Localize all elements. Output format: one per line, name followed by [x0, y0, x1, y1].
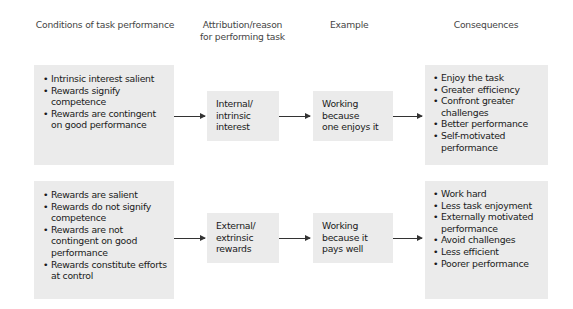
list-item: Rewards are contingent on good performan… [43, 108, 168, 131]
attribution-line: interest [216, 121, 279, 133]
list-item: Better performance [433, 118, 544, 130]
header-attribution-line1: Attribution/reason [190, 19, 295, 31]
header-attribution-line2: for performing task [190, 31, 295, 43]
header-consequences: Consequences [430, 19, 542, 31]
header-example: Example [318, 19, 400, 31]
arrow-icon [174, 116, 205, 117]
list-item: Self-motivated performance [433, 130, 544, 153]
row2-consequences-box: Work hard Less task enjoyment Externally… [425, 181, 548, 299]
list-item: Enjoy the task [433, 72, 544, 84]
list-item: Confront greater challenges [433, 95, 544, 118]
row1-conditions-list: Intrinsic interest salient Rewards signi… [43, 73, 168, 131]
list-item: Poorer performance [433, 258, 544, 270]
example-line: pays well [322, 243, 393, 255]
attribution-line: Internal/ [216, 98, 279, 110]
row1-consequences-list: Enjoy the task Greater efficiency Confro… [433, 72, 544, 153]
row1-example-box: Working because one enjoys it [313, 91, 393, 141]
list-item: Less efficient [433, 246, 544, 258]
example-line: Working [322, 98, 393, 110]
arrow-icon [279, 238, 310, 239]
list-item: Rewards signify competence [43, 85, 168, 108]
example-line: Working [322, 220, 393, 232]
row2-conditions-box: Rewards are salient Rewards do not signi… [34, 181, 174, 299]
example-line: one enjoys it [322, 121, 393, 133]
row2-example-box: Working because it pays well [313, 213, 393, 263]
list-item: Rewards constitute efforts at control [43, 259, 168, 282]
row2-consequences-list: Work hard Less task enjoyment Externally… [433, 188, 544, 269]
attribution-line: rewards [216, 243, 279, 255]
arrow-icon [279, 116, 310, 117]
attribution-line: intrinsic [216, 110, 279, 122]
attribution-line: extrinsic [216, 232, 279, 244]
list-item: Rewards are salient [43, 189, 168, 201]
list-item: Greater efficiency [433, 84, 544, 96]
row2-attribution-box: External/ extrinsic rewards [207, 213, 279, 263]
header-conditions: Conditions of task performance [20, 19, 190, 31]
arrow-icon [174, 238, 205, 239]
header-attribution: Attribution/reason for performing task [190, 19, 295, 43]
attribution-line: External/ [216, 220, 279, 232]
list-item: Avoid challenges [433, 234, 544, 246]
list-item: Rewards do not signify competence [43, 201, 168, 224]
list-item: Work hard [433, 188, 544, 200]
list-item: Less task enjoyment [433, 200, 544, 212]
list-item: Rewards are not contingent on good perfo… [43, 224, 168, 259]
list-item: Externally motivated performance [433, 211, 544, 234]
row1-conditions-box: Intrinsic interest salient Rewards signi… [34, 65, 174, 165]
arrow-icon [393, 116, 422, 117]
example-line: because it [322, 232, 393, 244]
example-line: because [322, 110, 393, 122]
row1-consequences-box: Enjoy the task Greater efficiency Confro… [425, 65, 548, 165]
row2-conditions-list: Rewards are salient Rewards do not signi… [43, 189, 168, 282]
arrow-icon [393, 238, 422, 239]
row1-attribution-box: Internal/ intrinsic interest [207, 91, 279, 141]
list-item: Intrinsic interest salient [43, 73, 168, 85]
